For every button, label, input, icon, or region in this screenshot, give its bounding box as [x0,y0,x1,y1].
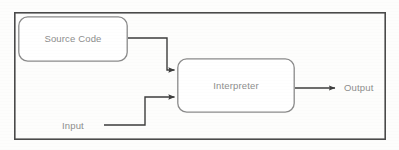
node-label-source-code: Source Code [18,34,128,44]
diagram-vector-layer [0,0,399,150]
diagram-canvas: Source Code Interpreter Input Output [0,0,399,150]
edge-input-to-interpreter [104,97,175,125]
edge-source-code-to-interpreter [128,38,175,70]
node-label-interpreter: Interpreter [177,81,295,91]
text-label-output: Output [344,83,392,93]
text-label-input: Input [62,121,102,131]
